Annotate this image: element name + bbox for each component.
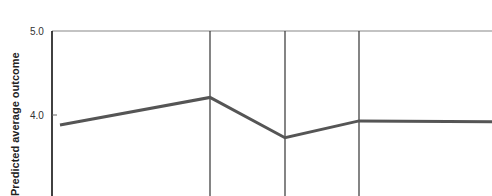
y-tick-label-4: 4.0 (30, 110, 44, 121)
data-series-line (60, 97, 492, 137)
y-axis-label: Predicted average outcome (9, 52, 21, 196)
line-chart: 5.0 4.0 Predicted average outcome (0, 0, 492, 196)
y-tick-label-5: 5.0 (30, 26, 44, 37)
